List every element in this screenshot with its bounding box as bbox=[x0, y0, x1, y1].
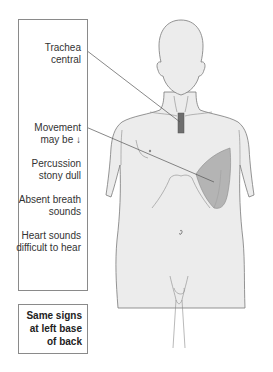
effusion-diagram: Trachea central Movement may be ↓ Percus… bbox=[0, 0, 273, 372]
sign-movement-line1: Movement bbox=[34, 122, 81, 134]
sign-percussion-line1: Percussion bbox=[32, 158, 81, 170]
sign-breath-sounds: Absent breath sounds bbox=[19, 194, 81, 218]
sign-breath-line2: sounds bbox=[19, 206, 81, 218]
sign-movement-line2: may be ↓ bbox=[34, 134, 81, 146]
trachea-marker bbox=[178, 113, 184, 133]
sign-heart-line2: difficult to hear bbox=[16, 242, 81, 254]
sign-heart-line1: Heart sounds bbox=[16, 230, 81, 242]
sign-trachea: Trachea central bbox=[45, 42, 81, 66]
note-line3: of back bbox=[26, 335, 82, 348]
clinical-signs-box: Trachea central Movement may be ↓ Percus… bbox=[18, 19, 88, 291]
note-line2: at left base bbox=[26, 322, 82, 335]
sign-percussion-line2: stony dull bbox=[32, 170, 81, 182]
sign-percussion: Percussion stony dull bbox=[32, 158, 81, 182]
note-line1: Same signs bbox=[26, 309, 82, 322]
sign-breath-line1: Absent breath bbox=[19, 194, 81, 206]
sign-trachea-line1: Trachea bbox=[45, 42, 81, 54]
sign-trachea-line2: central bbox=[45, 54, 81, 66]
body-outline bbox=[106, 20, 254, 308]
sign-movement: Movement may be ↓ bbox=[34, 122, 81, 146]
nipple-marker bbox=[149, 150, 151, 152]
sign-heart-sounds: Heart sounds difficult to hear bbox=[16, 230, 81, 254]
back-signs-note: Same signs at left base of back bbox=[26, 309, 82, 348]
back-signs-note-box: Same signs at left base of back bbox=[18, 304, 88, 354]
